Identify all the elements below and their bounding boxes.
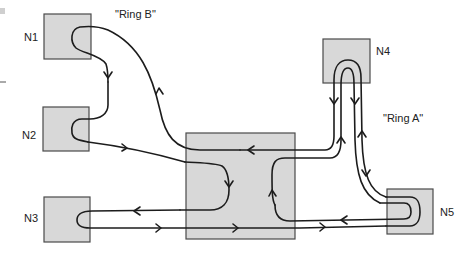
node-n5-label: N5 (440, 206, 454, 218)
node-n2: N2 (22, 107, 89, 151)
hub-node (186, 133, 295, 239)
node-n3-box (44, 197, 90, 242)
node-n1: N1 (24, 14, 91, 59)
node-n2-box (43, 107, 89, 151)
node-n5-box (387, 189, 433, 234)
ring-b-wire-n2-hub (88, 142, 185, 162)
ring-b-wire-n1-loop (72, 26, 240, 150)
node-n3-label: N3 (24, 212, 38, 224)
node-n4: N4 (323, 39, 390, 83)
ring-topology-diagram: N1 N2 N3 N4 N5 "Ring B" "Ring A" (0, 0, 474, 254)
node-n2-label: N2 (22, 129, 36, 141)
ring-a-label: "Ring A" (383, 112, 423, 124)
edge-artifact-square (0, 8, 5, 14)
arrow-up-ring-b-arc (156, 88, 163, 94)
node-n4-box (323, 39, 370, 83)
ring-b-label: "Ring B" (115, 8, 156, 20)
node-n4-label: N4 (376, 45, 390, 57)
node-n3: N3 (24, 197, 90, 242)
hub-box (186, 133, 295, 239)
node-n1-label: N1 (24, 31, 38, 43)
